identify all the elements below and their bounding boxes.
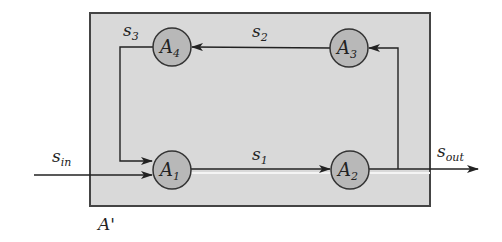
automaton-diagram: A1 A2 A3 A4 s3 s2 s1 sin sout A' — [0, 0, 502, 242]
label-s-out: sout — [437, 141, 464, 164]
label-s-in: sin — [52, 146, 71, 169]
container-label: A' — [96, 214, 115, 234]
node-A3: A3 — [330, 29, 368, 67]
node-A2: A2 — [331, 151, 369, 189]
node-A1: A1 — [153, 151, 191, 189]
edge-s2 — [192, 47, 330, 48]
node-A4: A4 — [153, 28, 191, 66]
